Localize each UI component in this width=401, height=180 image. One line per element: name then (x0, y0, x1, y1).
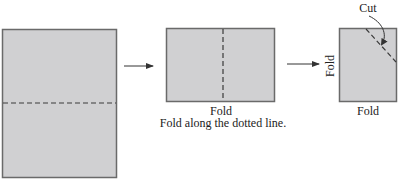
cut-label: Cut (359, 1, 377, 15)
paper-folding-diagram: Fold Fold along the dotted line. Cut Fol… (0, 0, 401, 180)
fold-caption: Fold along the dotted line. (160, 116, 286, 130)
step-unfolded-sheet (3, 30, 117, 178)
twice-folded-paper (340, 29, 397, 102)
step-folded-twice: Cut Fold Fold (323, 1, 397, 118)
side-fold-label: Fold (323, 55, 337, 77)
step-folded-once: Fold Fold along the dotted line. (160, 29, 286, 131)
folded-paper (167, 29, 275, 102)
bottom-fold-label: Fold (357, 104, 379, 118)
